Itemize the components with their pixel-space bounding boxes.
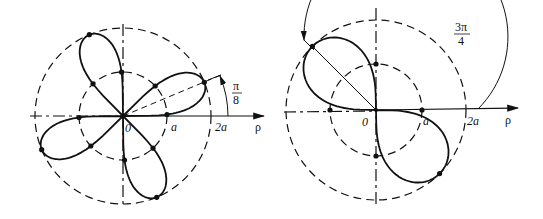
left-origin-label: 0 [125, 121, 131, 135]
curve-point-dot [150, 146, 155, 151]
curve-point-dot [327, 107, 332, 112]
left-angle-arc [220, 76, 228, 116]
left-origin-dot [121, 114, 126, 119]
right-angle-arc [304, 0, 508, 109]
right-a-label: a [423, 114, 429, 128]
right-angle-numerator: 3π [455, 20, 467, 34]
left-rho-label: ρ [255, 120, 261, 134]
curve-point-dot [373, 61, 378, 66]
curve-point-dot [373, 153, 378, 158]
right-angle-denominator: 4 [458, 34, 464, 48]
curve-point-dot [154, 195, 159, 200]
curve-point-dot [88, 143, 93, 148]
curve-point-dot [419, 107, 424, 112]
curve-point-dot [310, 44, 315, 49]
curve-point-dot [202, 80, 207, 85]
curve-point-dot [153, 83, 158, 88]
right-2a-label: 2a [467, 114, 479, 128]
curve-point-dot [122, 157, 127, 162]
curve-point-dot [39, 147, 44, 152]
right-rho-label: ρ [505, 113, 511, 127]
left-figure: 0 a 2a ρ π 8 [30, 24, 264, 208]
curve-point-dot [87, 32, 92, 37]
left-angle-numerator: π [233, 79, 239, 93]
right-figure: 0 a 2a ρ 3π 4 [284, 0, 518, 204]
right-origin-label: 0 [362, 115, 368, 129]
curve-point-dot [90, 81, 95, 86]
curve-point-dot [119, 69, 124, 74]
curve-point-dot [164, 112, 169, 117]
left-2a-label: 2a [215, 120, 227, 134]
polar-diagrams: 0 a 2a ρ π 8 0 a 2a ρ 3π 4 [0, 0, 543, 219]
right-origin-dot [374, 108, 378, 112]
curve-point-dot [76, 115, 81, 120]
right-polar-axis [376, 108, 518, 110]
left-a-label: a [171, 120, 177, 134]
curve-point-dot [437, 171, 442, 176]
left-angle-arc-tick [208, 75, 221, 80]
left-angle-denominator: 8 [233, 93, 239, 107]
